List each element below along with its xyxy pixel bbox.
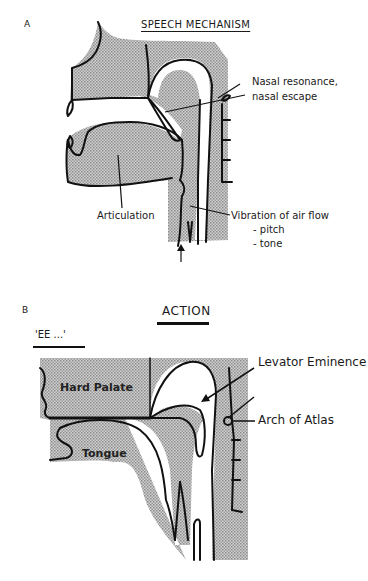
label-hard-palate: Hard Palate — [60, 382, 133, 393]
label-nasal-escape: nasal escape — [252, 92, 317, 102]
sound-label: 'EE ...' — [35, 330, 66, 340]
label-arch-of-atlas: Arch of Atlas — [258, 414, 334, 426]
label-nasal-resonance: Nasal resonance, — [252, 77, 338, 87]
panel-a-title: SPEECH MECHANISM — [141, 20, 250, 30]
panel-a-letter: A — [24, 20, 30, 29]
panel-a-anatomy — [66, 22, 245, 262]
panel-b-anatomy — [33, 322, 255, 560]
diagram-canvas — [0, 0, 368, 581]
label-vibration: Vibration of air flow — [231, 211, 329, 221]
panel-b-letter: B — [22, 306, 28, 315]
panel-b-title: ACTION — [162, 305, 211, 317]
label-levator-eminence: Levator Eminence — [258, 356, 366, 368]
label-tongue: Tongue — [82, 448, 127, 459]
label-articulation: Articulation — [97, 211, 155, 221]
label-tone: - tone — [253, 239, 282, 249]
label-pitch: - pitch — [253, 225, 285, 235]
